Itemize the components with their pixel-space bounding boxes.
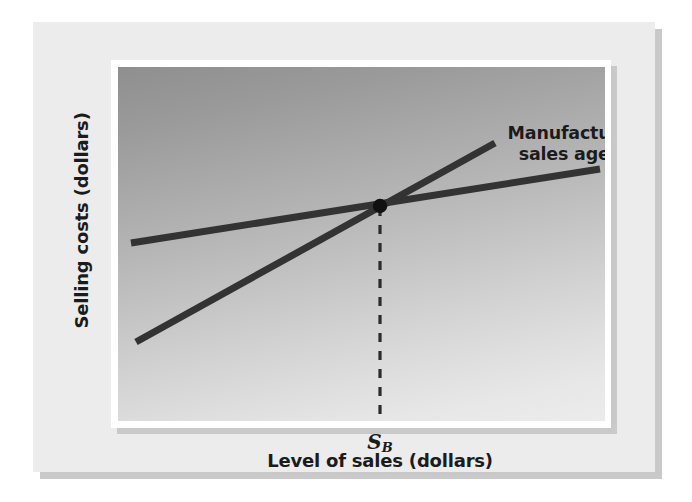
breakeven-point-marker [373, 199, 387, 213]
figure-container: Selling costs (dollars) Manufacturer'ssa… [0, 0, 692, 502]
figure-card: Selling costs (dollars) Manufacturer'ssa… [33, 22, 655, 472]
series-label-manufacturers-sales-agency: Manufacturer'ssales agency [506, 123, 605, 164]
plot-area: Manufacturer'ssales agency Companysales … [118, 67, 605, 421]
x-axis-title: Level of sales (dollars) [180, 450, 580, 471]
series-line-manufacturers-sales-agency [136, 143, 495, 342]
series-label-manufacturer-line2: sales agency [519, 144, 605, 164]
chart-svg [118, 67, 605, 421]
series-line-company-sales-force [131, 169, 600, 243]
y-axis-title: Selling costs (dollars) [71, 129, 92, 329]
series-label-manufacturer-line1: Manufacturer's [508, 123, 605, 143]
plot-mat: Manufacturer'ssales agency Companysales … [111, 60, 611, 428]
